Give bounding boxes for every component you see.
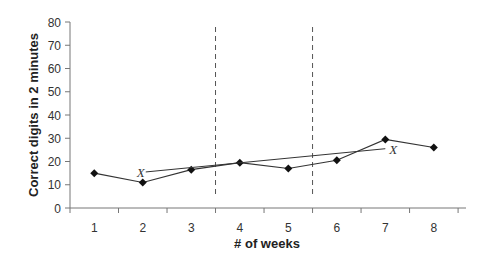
y-tick-label: 60 xyxy=(48,62,62,76)
phase-change-lines xyxy=(216,27,313,198)
y-axis: 01020304050607080 xyxy=(48,16,70,216)
x-tick-label: 1 xyxy=(91,221,98,235)
line-chart: 01020304050607080 12345678 XX Correct di… xyxy=(0,0,492,271)
diamond-marker xyxy=(430,144,438,152)
x-tick-label: 8 xyxy=(430,221,437,235)
y-axis-title: Correct digits in 2 minutes xyxy=(26,33,41,197)
x-axis-title: # of weeks xyxy=(234,236,300,251)
trend-x-marker: X xyxy=(136,165,146,180)
x-tick-label: 5 xyxy=(285,221,292,235)
diamond-marker xyxy=(333,156,341,164)
y-tick-label: 80 xyxy=(48,16,62,30)
x-axis: 12345678 xyxy=(70,208,466,235)
y-tick-label: 10 xyxy=(48,178,62,192)
y-tick-label: 30 xyxy=(48,132,62,146)
y-tick-label: 0 xyxy=(54,202,61,216)
x-tick-label: 6 xyxy=(333,221,340,235)
x-tick-label: 4 xyxy=(236,221,243,235)
x-tick-label: 3 xyxy=(188,221,195,235)
trend-line xyxy=(146,149,386,172)
x-tick-label: 2 xyxy=(139,221,146,235)
y-tick-label: 50 xyxy=(48,85,62,99)
y-tick-label: 70 xyxy=(48,39,62,53)
diamond-marker xyxy=(284,164,292,172)
y-tick-label: 20 xyxy=(48,155,62,169)
trend-x-marker: X xyxy=(388,142,398,157)
data-series: XX xyxy=(90,135,438,186)
diamond-marker xyxy=(381,135,389,143)
diamond-marker xyxy=(90,169,98,177)
x-tick-label: 7 xyxy=(382,221,389,235)
y-tick-label: 40 xyxy=(48,109,62,123)
